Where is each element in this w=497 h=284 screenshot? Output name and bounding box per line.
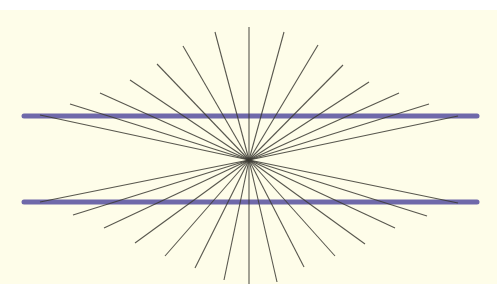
illusion-canvas [0, 0, 497, 284]
hering-illusion-figure [0, 0, 497, 284]
